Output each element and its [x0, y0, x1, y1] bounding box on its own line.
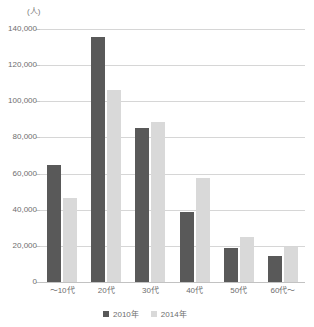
bar [224, 248, 238, 282]
gridline [40, 282, 305, 283]
y-axis-tick-label: 0 [0, 277, 37, 286]
x-axis-labels: ～10代20代30代40代50代60代～ [40, 285, 305, 296]
bar-group [84, 29, 128, 282]
chart-legend: 2010年2014年 [103, 307, 187, 321]
x-axis-tick-label: 30代 [128, 285, 172, 296]
legend-label: 2014年 [161, 310, 187, 319]
x-axis-tick-label: 50代 [217, 285, 261, 296]
bar [107, 90, 121, 282]
legend-item[interactable]: 2014年 [151, 310, 187, 319]
legend-item[interactable]: 2010年 [103, 310, 139, 319]
bar [268, 256, 282, 282]
bar-group [128, 29, 172, 282]
bar [180, 212, 194, 282]
y-axis-tick-label: 60,000 [0, 169, 37, 178]
bar [284, 247, 298, 282]
bar-groups [40, 29, 305, 282]
legend-swatch-icon [151, 311, 157, 317]
legend-swatch-icon [103, 311, 109, 317]
bar [151, 122, 165, 282]
bar [135, 128, 149, 282]
bar [63, 198, 77, 282]
bar [196, 178, 210, 282]
x-axis-tick-label: 40代 [173, 285, 217, 296]
bar-group [173, 29, 217, 282]
bar-chart: (人) ～10代20代30代40代50代60代～ 2010年2014年 020,… [0, 0, 314, 327]
y-axis-tick-label: 40,000 [0, 205, 37, 214]
bar-group [217, 29, 261, 282]
y-axis-tick-label: 120,000 [0, 60, 37, 69]
y-axis-unit-label: (人) [27, 7, 40, 17]
bar [91, 37, 105, 282]
y-axis-tick-label: 20,000 [0, 241, 37, 250]
bar [47, 165, 61, 282]
bar-group [261, 29, 305, 282]
bar-group [40, 29, 84, 282]
y-axis-tick-label: 100,000 [0, 96, 37, 105]
x-axis-tick-label: ～10代 [40, 285, 84, 296]
x-axis-tick-label: 20代 [84, 285, 128, 296]
x-axis-tick-label: 60代～ [261, 285, 305, 296]
bar [240, 237, 254, 282]
legend-label: 2010年 [113, 310, 139, 319]
y-axis-tick-label: 80,000 [0, 132, 37, 141]
y-axis-tick-label: 140,000 [0, 24, 37, 33]
top-caption-clipped [4, 0, 304, 5]
